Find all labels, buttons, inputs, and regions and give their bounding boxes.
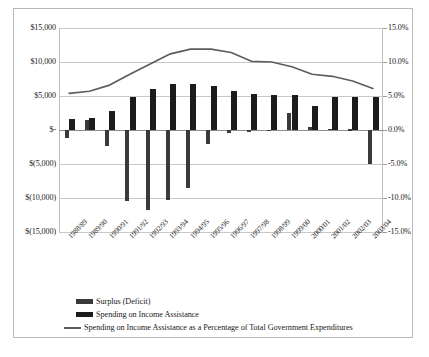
y-axis-right-tick: -10.0% <box>388 193 428 202</box>
legend-label-income-assistance: Spending on Income Assistance <box>96 310 199 319</box>
y-axis-left-tick: $15,000 <box>16 23 56 32</box>
y-axis-right-tick: -15.0% <box>388 227 428 236</box>
y-axis-left-tick: $- <box>16 125 56 134</box>
y-axis-right-tick: -5.0% <box>388 159 428 168</box>
y-axis-left-tick: $(5,000) <box>16 159 56 168</box>
line-series-spending-percentage <box>59 28 383 232</box>
legend-label-surplus-deficit: Surplus (Deficit) <box>96 297 150 306</box>
y-axis-right-tickmark <box>383 96 387 97</box>
legend-swatch-surplus-deficit <box>76 299 93 304</box>
y-axis-right-tickmark <box>383 62 387 63</box>
legend-swatch-income-assistance-percentage <box>64 327 81 329</box>
y-axis-right-tick: 15.0% <box>388 23 428 32</box>
y-axis-left-tick: $10,000 <box>16 57 56 66</box>
y-axis-right-tickmark <box>383 130 387 131</box>
y-axis-right-tickmark <box>383 198 387 199</box>
y-axis-left-tick: $5,000 <box>16 91 56 100</box>
y-axis-right-tickmark <box>383 28 387 29</box>
legend-label-income-assistance-percentage: Spending on Income Assistance as a Perce… <box>84 323 353 332</box>
y-axis-left-tick: $(15,000) <box>16 227 56 236</box>
legend-item-income-assistance-percentage: Spending on Income Assistance as a Perce… <box>14 321 414 334</box>
y-axis-right-tickmark <box>383 164 387 165</box>
x-axis-labels: 1988/891989/901990/911991/921992/931993/… <box>59 234 383 290</box>
legend-swatch-income-assistance <box>76 312 93 317</box>
chart-legend: Surplus (Deficit) Spending on Income Ass… <box>14 295 414 334</box>
y-axis-right-tick: 0.0% <box>388 125 428 134</box>
plot-area <box>59 28 383 232</box>
y-axis-right-tick: 5.0% <box>388 91 428 100</box>
legend-item-surplus-deficit: Surplus (Deficit) <box>14 295 414 308</box>
chart-frame: $15,000$10,000$5,000$-$(5,000)$(10,000)$… <box>13 8 413 338</box>
y-axis-right-tick: 10.0% <box>388 57 428 66</box>
y-axis-left-tick: $(10,000) <box>16 193 56 202</box>
legend-item-income-assistance: Spending on Income Assistance <box>14 308 414 321</box>
